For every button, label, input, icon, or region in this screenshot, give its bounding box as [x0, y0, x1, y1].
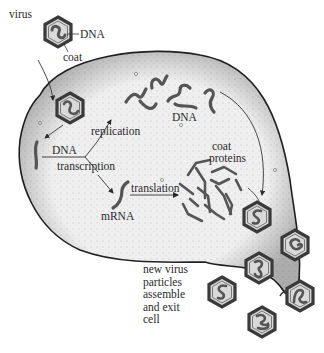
new-virus-particle [282, 230, 308, 260]
label-new-virus-block: new virus particles assemble and exit ce… [143, 263, 223, 326]
new-virus-particle [249, 307, 275, 337]
label-coat-proteins-1: coat [212, 140, 231, 152]
entering-virus [45, 17, 71, 47]
label-coat: coat [63, 51, 82, 63]
label-transcription: transcription [57, 160, 115, 172]
label-exit-line-2: particles [143, 276, 223, 289]
label-coat-proteins-2: proteins [209, 152, 246, 164]
label-dna-left: DNA [52, 144, 77, 156]
label-exit-line-3: assemble [143, 288, 223, 301]
label-virus: virus [9, 8, 32, 20]
label-dna-middle: DNA [172, 111, 197, 123]
assembling-virus [244, 202, 270, 232]
label-exit-line-5: cell [143, 313, 223, 326]
label-dna-top: DNA [80, 28, 105, 40]
label-replication: replication [91, 125, 140, 137]
new-virus-particle [246, 253, 272, 283]
internalized-virus [57, 93, 83, 123]
label-exit-line-4: and exit [143, 301, 223, 314]
label-exit-line-1: new virus [143, 263, 223, 276]
released-dna-strand [35, 142, 37, 168]
new-virus-particle [287, 281, 313, 311]
label-translation: translation [131, 182, 180, 194]
label-mrna: mRNA [101, 210, 134, 222]
